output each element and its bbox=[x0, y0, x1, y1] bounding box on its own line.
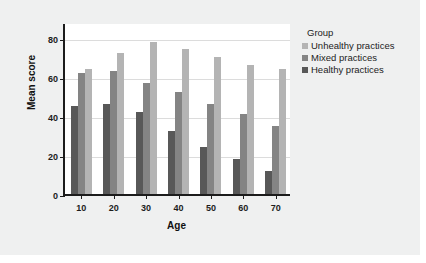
x-tick-label: 60 bbox=[238, 203, 248, 213]
bar-healthy-50 bbox=[200, 147, 207, 194]
bar-unhealthy-70 bbox=[279, 69, 286, 194]
bar-mixed-40 bbox=[175, 92, 182, 194]
bar-healthy-10 bbox=[71, 106, 78, 194]
bar-group bbox=[168, 24, 189, 194]
x-axis-title: Age bbox=[63, 220, 290, 231]
bar-mixed-50 bbox=[207, 104, 214, 194]
bar-unhealthy-40 bbox=[182, 49, 189, 194]
bar-unhealthy-50 bbox=[214, 57, 221, 194]
x-tick-label: 20 bbox=[109, 203, 119, 213]
legend-entry: Unhealthy practices bbox=[302, 40, 394, 51]
bar-healthy-30 bbox=[136, 112, 143, 194]
bar-group bbox=[200, 24, 221, 194]
plot-area: 020406080 10203040506070 bbox=[63, 24, 290, 196]
legend-swatch-icon bbox=[302, 43, 308, 49]
legend-swatch-icon bbox=[302, 67, 308, 73]
bar-mixed-70 bbox=[272, 126, 279, 194]
legend-label: Unhealthy practices bbox=[311, 40, 394, 51]
x-tick-label: 40 bbox=[173, 203, 183, 213]
x-tick-label: 10 bbox=[76, 203, 86, 213]
y-tick-label: 80 bbox=[48, 35, 65, 45]
y-tick-label: 20 bbox=[48, 152, 65, 162]
x-tick-label: 30 bbox=[141, 203, 151, 213]
bar-mixed-20 bbox=[110, 71, 117, 194]
bar-unhealthy-20 bbox=[117, 53, 124, 194]
bar-mixed-10 bbox=[78, 73, 85, 194]
legend-title: Group bbox=[307, 27, 394, 38]
chart-figure: Mean score 020406080 10203040506070 Age … bbox=[0, 0, 420, 255]
legend-entries: Unhealthy practicesMixed practicesHealth… bbox=[302, 40, 394, 75]
bar-healthy-40 bbox=[168, 131, 175, 194]
y-tick-label: 0 bbox=[53, 191, 65, 201]
bar-healthy-20 bbox=[103, 104, 110, 194]
y-tick-label: 40 bbox=[48, 113, 65, 123]
bar-unhealthy-10 bbox=[85, 69, 92, 194]
bar-group bbox=[265, 24, 286, 194]
x-tick-label: 50 bbox=[206, 203, 216, 213]
x-tick-label: 70 bbox=[271, 203, 281, 213]
legend-label: Healthy practices bbox=[311, 64, 384, 75]
bar-group bbox=[136, 24, 157, 194]
bar-group bbox=[233, 24, 254, 194]
legend-entry: Mixed practices bbox=[302, 52, 394, 63]
bar-group bbox=[103, 24, 124, 194]
bar-unhealthy-30 bbox=[150, 42, 157, 194]
legend: Group Unhealthy practicesMixed practices… bbox=[302, 27, 394, 76]
legend-label: Mixed practices bbox=[311, 52, 377, 63]
bar-mixed-60 bbox=[240, 114, 247, 194]
y-axis-title: Mean score bbox=[26, 55, 37, 110]
legend-swatch-icon bbox=[302, 55, 308, 61]
y-tick-label: 60 bbox=[48, 74, 65, 84]
bar-mixed-30 bbox=[143, 83, 150, 194]
bars-layer bbox=[65, 24, 290, 194]
bar-group bbox=[71, 24, 92, 194]
bar-unhealthy-60 bbox=[247, 65, 254, 194]
legend-entry: Healthy practices bbox=[302, 64, 394, 75]
bar-healthy-60 bbox=[233, 159, 240, 194]
bar-healthy-70 bbox=[265, 171, 272, 194]
